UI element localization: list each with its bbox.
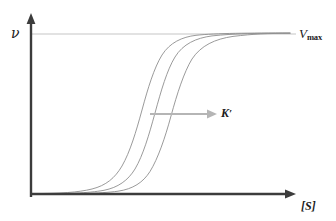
k-prime-symbol: K — [221, 106, 229, 120]
x-axis-label: [S] — [301, 200, 316, 212]
plot-canvas — [0, 0, 336, 221]
k-prime-mark: ′ — [229, 107, 232, 119]
y-axis-label: ν — [11, 26, 20, 40]
k-prime-label: K′ — [221, 107, 232, 119]
x-axis-arrowhead — [285, 189, 296, 198]
vmax-subscript: max — [307, 32, 322, 42]
enzyme-kinetics-figure: ν Vmax K′ [S] — [0, 0, 336, 221]
k-prime-arrow-head — [207, 110, 217, 119]
vmax-label: Vmax — [299, 27, 322, 41]
vmax-symbol: V — [299, 26, 307, 41]
y-axis-arrowhead — [27, 13, 36, 24]
